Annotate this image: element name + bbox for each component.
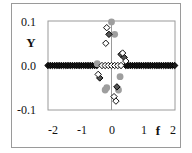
circle-marker [117,73,124,80]
x-tick-2: 2 [170,123,176,137]
diamond-marker [103,40,109,46]
y-axis-label: Y [26,35,36,50]
y-tick-neg0.1: -0.1 [17,103,36,117]
diamond-marker [104,24,110,30]
x-tick-1: 1 [141,123,147,137]
x-tick-0: 0 [109,123,115,137]
y-tick-0.0: 0.0 [21,59,36,73]
x-axis-label: f [156,123,161,138]
circle-marker [102,87,109,94]
x-tick-neg2: -2 [48,123,58,137]
scatter-chart: 0.1 0.0 -0.1 Y -2 -1 0 1 f 2 [0,0,192,153]
x-tick-neg1: -1 [77,123,87,137]
y-tick-0.1: 0.1 [21,15,36,29]
circle-marker [108,18,115,25]
